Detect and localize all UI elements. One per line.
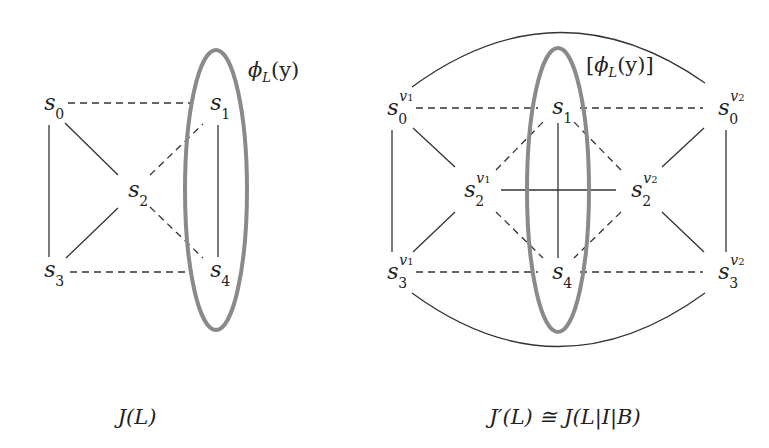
sup-index: 1 — [484, 174, 490, 185]
node-subscript: 0 — [55, 107, 64, 121]
node-s0-v2: sv20 — [718, 97, 729, 119]
node-subscript: 3 — [729, 276, 738, 290]
node-base: s — [387, 259, 398, 284]
node-base: s — [128, 177, 139, 202]
node-s3-v1: sv13 — [387, 261, 398, 283]
node-s4: s4 — [552, 261, 563, 283]
edge-s2-s4 — [150, 207, 203, 258]
node-superscript: v2 — [730, 253, 744, 267]
node-superscript: v1 — [399, 253, 413, 267]
node-base: s — [552, 94, 563, 119]
edge-arc-top — [412, 32, 705, 87]
edge-s3v1-s2v1 — [413, 212, 455, 252]
node-superscript: v2 — [643, 171, 657, 185]
node-s2: s2 — [128, 179, 139, 201]
edge-s2-s1 — [150, 124, 203, 175]
node-base: s — [631, 177, 642, 202]
phi-argument: (y) — [617, 53, 645, 77]
node-base: s — [552, 259, 563, 284]
node-subscript: 2 — [475, 194, 484, 208]
node-subscript: 1 — [563, 111, 572, 125]
node-base: s — [44, 90, 55, 115]
right-caption: J′(L) ≅ J(L|I|B) — [489, 405, 641, 429]
left-ellipse-label: ϕL(y) — [248, 60, 299, 84]
sup-index: 1 — [407, 92, 413, 103]
right-graph-edges — [392, 32, 726, 346]
phi-subscript: L — [262, 70, 271, 85]
node-base: s — [718, 95, 729, 120]
edge-s2v2-s1 — [574, 122, 621, 170]
node-superscript: v1 — [399, 89, 413, 103]
edge-s3-s2 — [66, 208, 118, 258]
node-subscript: 0 — [398, 112, 407, 126]
right-ellipse-label: [ϕL(y)] — [586, 55, 654, 79]
phi-symbol: ϕ — [248, 58, 262, 82]
node-subscript: 2 — [139, 194, 148, 208]
edge-s0v2-s2v2 — [662, 128, 704, 167]
node-subscript: 4 — [563, 276, 572, 290]
node-s1: s1 — [210, 92, 221, 114]
node-subscript: 2 — [642, 194, 651, 208]
phi-symbol: ϕ — [594, 53, 608, 77]
node-superscript: v1 — [476, 171, 490, 185]
sup-base: v — [399, 88, 407, 104]
edge-s0v1-s2v1 — [413, 128, 455, 167]
sup-index: 1 — [407, 256, 413, 267]
node-s2-v2: sv22 — [631, 179, 642, 201]
node-subscript: 1 — [221, 107, 230, 121]
sup-index: 2 — [738, 256, 744, 267]
node-base: s — [210, 257, 221, 282]
sup-base: v — [476, 170, 484, 186]
node-subscript: 4 — [221, 274, 230, 288]
node-base: s — [387, 95, 398, 120]
sup-base: v — [730, 88, 738, 104]
sup-index: 2 — [738, 92, 744, 103]
sup-base: v — [399, 252, 407, 268]
node-base: s — [210, 90, 221, 115]
node-base: s — [44, 257, 55, 282]
left-caption: J(L) — [118, 405, 157, 429]
edge-s0-s2 — [65, 123, 118, 175]
edge-arc-bottom — [412, 293, 705, 347]
sup-base: v — [730, 252, 738, 268]
sup-index: 2 — [651, 174, 657, 185]
node-s4: s4 — [210, 259, 221, 281]
node-s3: s3 — [44, 259, 55, 281]
edge-s3v2-s2v2 — [662, 212, 704, 252]
node-s3-v2: sv23 — [718, 261, 729, 283]
node-base: s — [718, 259, 729, 284]
edge-s2v1-s4 — [496, 212, 543, 258]
node-s0: s0 — [44, 92, 55, 114]
node-superscript: v2 — [730, 89, 744, 103]
sup-base: v — [643, 170, 651, 186]
bracket-open: [ — [586, 53, 594, 77]
node-s1: s1 — [552, 96, 563, 118]
phi-subscript: L — [609, 65, 618, 80]
node-s2-v1: sv12 — [464, 179, 475, 201]
phi-argument: (y) — [271, 58, 299, 82]
diagram-canvas — [0, 0, 769, 448]
bracket-close: ] — [645, 53, 653, 77]
node-s0-v1: sv10 — [387, 97, 398, 119]
edge-s2v1-s1 — [496, 122, 543, 170]
node-base: s — [464, 177, 475, 202]
node-subscript: 0 — [729, 112, 738, 126]
edge-s2v2-s4 — [574, 212, 621, 258]
node-subscript: 3 — [398, 276, 407, 290]
node-subscript: 3 — [55, 274, 64, 288]
